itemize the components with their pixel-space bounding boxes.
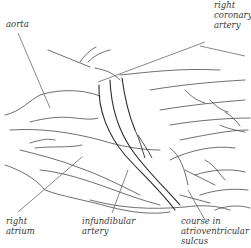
heart-diagram: aorta right coronary artery right atrium… [0, 0, 251, 248]
label-line: sulcus [181, 236, 249, 246]
label-line: right [214, 0, 251, 10]
label-line: right [6, 216, 35, 226]
label-line: atrioventricular [181, 226, 249, 236]
label-aorta: aorta [6, 19, 29, 29]
label-line: artery [82, 226, 135, 236]
label-line: infundibular [82, 216, 135, 226]
label-line: atrium [6, 226, 35, 236]
label-line: course in [181, 216, 249, 226]
label-line: artery [214, 20, 251, 30]
label-right-coronary-artery: right coronary artery [214, 0, 251, 30]
label-infundibular-artery: infundibular artery [82, 216, 135, 236]
heart-illustration [0, 0, 251, 248]
label-right-atrium: right atrium [6, 216, 35, 236]
label-line: coronary [214, 10, 251, 20]
label-course-in-av-sulcus: course in atrioventricular sulcus [181, 216, 249, 246]
